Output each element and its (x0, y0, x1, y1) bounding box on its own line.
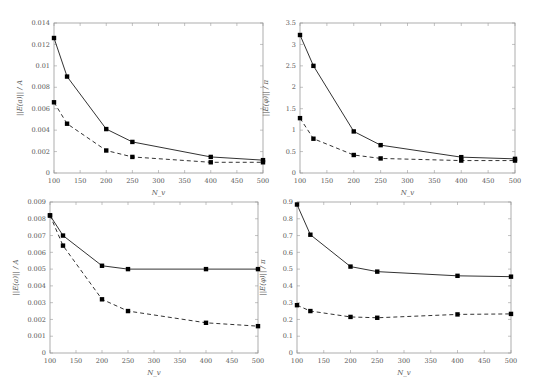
square-marker-icon (65, 122, 69, 126)
y-tick-label: 2.5 (286, 62, 296, 70)
y-tick-label: 0.8 (283, 215, 293, 223)
x-tick-label: 500 (257, 177, 269, 185)
x-tick-label: 350 (178, 177, 190, 185)
square-marker-icon (352, 129, 356, 133)
series-solid-line (50, 215, 258, 269)
square-marker-icon (375, 269, 379, 273)
x-tick-label: 500 (505, 357, 517, 365)
y-axis-label: ||E(a)|| / A (12, 259, 20, 295)
x-axis-label: N_v (146, 369, 161, 377)
x-tick-label: 250 (371, 357, 383, 365)
square-marker-icon (378, 156, 382, 160)
chart-canvas: 10015020025030035040045050000.0020.0040.… (0, 0, 538, 388)
y-tick-label: 0.9 (283, 198, 293, 206)
x-tick-label: 300 (152, 177, 164, 185)
x-tick-label: 300 (398, 357, 410, 365)
x-tick-label: 200 (100, 177, 112, 185)
square-marker-icon (100, 297, 104, 301)
subplot-3: 10015020025030035040045050000.0010.0020.… (12, 198, 264, 377)
square-marker-icon (61, 233, 65, 237)
square-marker-icon (308, 309, 312, 313)
y-tick-label: 0.6 (283, 249, 293, 257)
series-dashed-line (54, 102, 263, 162)
square-marker-icon (256, 324, 260, 328)
square-marker-icon (378, 143, 382, 147)
plot-frame (50, 202, 258, 353)
series-solid-line (54, 38, 263, 160)
x-tick-label: 350 (174, 357, 186, 365)
y-tick-label: 2 (292, 83, 296, 91)
subplot-1: 10015020025030035040045050000.0020.0040.… (16, 19, 269, 197)
y-tick-label: 0.008 (27, 215, 46, 223)
x-tick-label: 200 (344, 357, 356, 365)
x-tick-label: 400 (451, 357, 463, 365)
y-tick-label: 0.012 (31, 41, 50, 49)
y-tick-label: 0 (289, 349, 293, 357)
x-tick-label: 150 (318, 357, 330, 365)
y-tick-label: 0 (292, 169, 296, 177)
y-axis-label: ||E(a)|| / A (16, 80, 24, 116)
x-tick-label: 300 (401, 177, 413, 185)
square-marker-icon (130, 155, 134, 159)
y-tick-label: 0.4 (283, 282, 293, 290)
y-tick-label: 0.008 (31, 83, 50, 91)
series-dashed-line (50, 215, 258, 326)
x-tick-label: 350 (425, 357, 437, 365)
x-axis-label: N_v (151, 189, 166, 197)
y-tick-label: 0.002 (27, 316, 46, 324)
square-marker-icon (65, 74, 69, 78)
x-tick-label: 200 (96, 357, 108, 365)
x-tick-label: 100 (291, 357, 303, 365)
y-tick-label: 3.5 (286, 19, 296, 27)
y-tick-label: 0.006 (27, 249, 46, 257)
square-marker-icon (209, 160, 213, 164)
plot-frame (297, 202, 511, 353)
square-marker-icon (61, 243, 65, 247)
x-axis-label: N_v (396, 369, 411, 377)
square-marker-icon (126, 309, 130, 313)
x-tick-label: 450 (226, 357, 238, 365)
y-tick-label: 0 (42, 349, 46, 357)
square-marker-icon (352, 153, 356, 157)
y-tick-label: 0.006 (31, 105, 50, 113)
series-solid-line (300, 35, 515, 159)
square-marker-icon (455, 274, 459, 278)
y-tick-label: 0.014 (31, 19, 50, 27)
square-marker-icon (311, 64, 315, 68)
square-marker-icon (348, 264, 352, 268)
y-axis-label: ||E(φ)|| / π (259, 259, 267, 296)
square-marker-icon (509, 312, 513, 316)
square-marker-icon (204, 267, 208, 271)
x-axis-label: N_v (400, 189, 415, 197)
series-dashed-line (300, 118, 515, 160)
x-tick-label: 400 (205, 177, 217, 185)
x-tick-label: 400 (200, 357, 212, 365)
y-axis-label: ||E(φ)|| / π (262, 79, 270, 116)
y-tick-label: 0.7 (283, 232, 293, 240)
square-marker-icon (130, 140, 134, 144)
y-tick-label: 1.5 (286, 105, 296, 113)
square-marker-icon (298, 33, 302, 37)
y-tick-label: 0.5 (283, 265, 293, 273)
x-tick-label: 450 (482, 177, 494, 185)
x-tick-label: 150 (74, 177, 86, 185)
y-tick-label: 3 (292, 41, 296, 49)
y-tick-label: 0.009 (27, 198, 46, 206)
x-tick-label: 100 (44, 357, 56, 365)
square-marker-icon (295, 303, 299, 307)
square-marker-icon (104, 127, 108, 131)
square-marker-icon (204, 321, 208, 325)
y-tick-label: 0.2 (283, 316, 293, 324)
y-tick-label: 0.3 (283, 299, 293, 307)
x-tick-label: 500 (252, 357, 264, 365)
x-tick-label: 200 (348, 177, 360, 185)
square-marker-icon (311, 137, 315, 141)
y-tick-label: 0.005 (27, 265, 46, 273)
y-tick-label: 0.004 (27, 282, 46, 290)
square-marker-icon (459, 158, 463, 162)
square-marker-icon (104, 148, 108, 152)
y-tick-label: 0.004 (31, 126, 50, 134)
x-tick-label: 150 (321, 177, 333, 185)
plot-frame (54, 23, 263, 173)
x-tick-label: 150 (70, 357, 82, 365)
